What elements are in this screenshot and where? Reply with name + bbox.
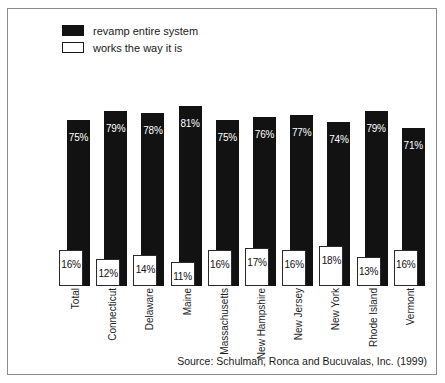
bar-group: 76%17% — [245, 64, 279, 286]
bar-value-label: 12% — [97, 268, 119, 279]
bar-group: 78%14% — [133, 64, 167, 286]
category-label-text: Vermont — [405, 288, 416, 325]
bar-works-the-way-it-is: 14% — [133, 255, 157, 286]
legend-item-revamp-entire-system: revamp entire system — [62, 22, 198, 39]
category-label: Delaware — [133, 288, 167, 368]
bar-works-the-way-it-is: 16% — [282, 250, 306, 286]
bar-value-label: 75% — [67, 132, 90, 143]
category-label-text: Connecticut — [107, 288, 118, 341]
category-label-text: Total — [70, 288, 81, 309]
category-label-text: Delaware — [144, 288, 155, 330]
legend-label-works-the-way-it-is: works the way it is — [93, 42, 182, 54]
bar-works-the-way-it-is: 12% — [96, 259, 120, 286]
category-label-text: New York — [330, 288, 341, 330]
bar-value-label: 78% — [141, 125, 164, 136]
bar-group: 74%18% — [319, 64, 353, 286]
bar-value-label: 16% — [209, 259, 231, 270]
bar-value-label: 14% — [134, 264, 156, 275]
category-label-text: Massachusetts — [219, 288, 230, 355]
plot-area: 75%16%79%12%78%14%81%11%75%16%76%17%77%1… — [59, 64, 434, 286]
bar-value-label: 77% — [290, 127, 313, 138]
bar-works-the-way-it-is: 18% — [319, 246, 343, 286]
legend-swatch-filled-black-square — [62, 25, 84, 36]
bar-works-the-way-it-is: 16% — [394, 250, 418, 286]
bar-works-the-way-it-is: 13% — [357, 257, 381, 286]
category-label-text: Rhode Island — [368, 288, 379, 347]
source-note: Source: Schulman, Ronca and Bucuvalas, I… — [177, 355, 427, 367]
bar-value-label: 16% — [283, 259, 305, 270]
category-label-text: New Hampshire — [256, 288, 267, 359]
bar-group: 81%11% — [171, 64, 205, 286]
bar-value-label: 79% — [104, 123, 127, 134]
chart-figure: revamp entire system works the way it is… — [7, 8, 437, 375]
bar-value-label: 11% — [172, 271, 194, 282]
bar-works-the-way-it-is: 16% — [59, 250, 83, 286]
bar-value-label: 16% — [395, 259, 417, 270]
bar-group: 79%13% — [357, 64, 391, 286]
bar-value-label: 76% — [253, 129, 276, 140]
bar-value-label: 17% — [246, 257, 268, 268]
category-label: Total — [59, 288, 93, 368]
category-label-text: Maine — [182, 288, 193, 315]
legend-swatch-hollow-white-square — [62, 42, 84, 53]
bar-value-label: 75% — [216, 132, 239, 143]
bar-value-label: 18% — [320, 255, 342, 266]
bar-value-label: 79% — [365, 123, 388, 134]
bar-value-label: 74% — [327, 134, 350, 145]
bar-works-the-way-it-is: 16% — [208, 250, 232, 286]
legend-item-works-the-way-it-is: works the way it is — [62, 39, 198, 56]
bar-revamp-entire-system: 81% — [179, 106, 202, 286]
bar-group: 75%16% — [208, 64, 242, 286]
bar-value-label: 81% — [179, 118, 202, 129]
bar-works-the-way-it-is: 11% — [171, 262, 195, 286]
bar-group: 75%16% — [59, 64, 93, 286]
legend-label-revamp-entire-system: revamp entire system — [93, 25, 198, 37]
bar-value-label: 71% — [402, 140, 425, 151]
bar-works-the-way-it-is: 17% — [245, 248, 269, 286]
bar-group: 71%16% — [394, 64, 428, 286]
bar-value-label: 13% — [358, 266, 380, 277]
bar-group: 77%16% — [282, 64, 316, 286]
category-label-text: New Jersey — [293, 288, 304, 340]
bar-value-label: 16% — [60, 259, 82, 270]
bar-group: 79%12% — [96, 64, 130, 286]
chart-legend: revamp entire system works the way it is — [62, 22, 198, 56]
category-label: Connecticut — [96, 288, 130, 368]
